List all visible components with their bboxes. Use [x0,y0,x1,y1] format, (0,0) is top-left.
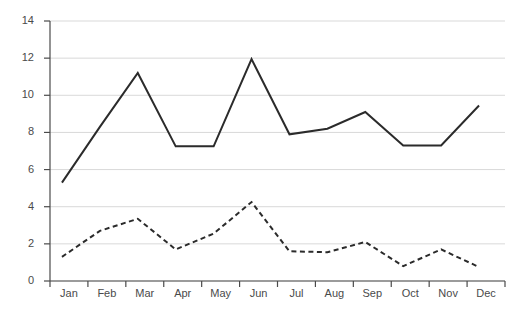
x-tick-label: Feb [87,288,127,299]
y-tick-label: 6 [8,164,34,175]
x-tick-label: Aug [314,288,354,299]
x-tick-marks-group [50,281,505,287]
y-tick-label: 12 [8,52,34,63]
gridlines-group [50,21,505,281]
y-tick-label: 4 [8,201,34,212]
data-series-group [62,59,479,267]
x-tick-label: Apr [163,288,203,299]
axes-group [50,21,505,281]
y-tick-label: 10 [8,89,34,100]
y-tick-label: 0 [8,275,34,286]
x-tick-label: Oct [390,288,430,299]
line-chart: 02468101214 JanFebMarAprMayJunJulAugSepO… [0,0,529,315]
x-tick-label: Mar [125,288,165,299]
x-tick-label: Dec [466,288,506,299]
y-tick-label: 8 [8,126,34,137]
x-tick-label: Jan [49,288,89,299]
series-line-2 [62,202,479,267]
x-tick-label: May [201,288,241,299]
y-tick-marks-group [44,21,50,281]
x-tick-label: Nov [428,288,468,299]
y-tick-label: 14 [8,15,34,26]
chart-canvas [0,0,529,315]
x-tick-label: Jun [239,288,279,299]
x-tick-label: Sep [352,288,392,299]
y-tick-label: 2 [8,238,34,249]
series-line-1 [62,59,479,183]
x-tick-label: Jul [276,288,316,299]
